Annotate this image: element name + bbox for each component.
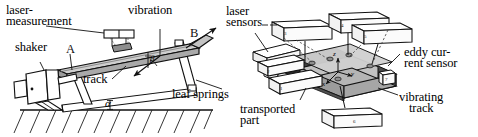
figure-vibratory-conveyor: laser-measurement vibration shaker track…: [0, 0, 478, 137]
item-number-7: 7: [385, 77, 388, 82]
item-number-5: 5: [364, 34, 367, 39]
axis-label-x: x: [322, 80, 325, 88]
label-transported-part: transportedpart: [240, 104, 295, 126]
axis-label-z: z: [333, 50, 336, 58]
laser-measurement-head: [104, 30, 134, 52]
ground-hatching: [14, 110, 213, 133]
item-number-3: 3: [284, 31, 287, 36]
symbol-point-a: A: [66, 42, 75, 57]
label-laser-sensors: lasersensors: [226, 6, 262, 28]
label-eddy-current-sensor: eddy cur-rent sensor: [404, 47, 457, 69]
label-vibration: vibration: [128, 5, 172, 17]
label-transported-part-line2: part: [240, 113, 259, 127]
label-laser-sensors-line2: sensors: [226, 15, 262, 29]
label-vibrating-track-line2: track: [399, 103, 433, 114]
item-number-6: 6: [353, 119, 356, 124]
label-shaker: shaker: [15, 42, 47, 54]
axis-label-y: y: [351, 70, 354, 78]
label-vibrating-track: vibratingtrack: [399, 92, 443, 114]
label-eddy-current-line2: rent sensor: [404, 56, 457, 70]
symbol-angle-beta: β: [150, 53, 154, 63]
symbol-angle-alpha: α: [105, 97, 111, 109]
label-laser-measurement: laser-measurement: [6, 5, 72, 27]
item-number-4: 4: [341, 23, 344, 28]
label-laser-measurement-line2: measurement: [6, 14, 72, 28]
symbol-point-b: B: [190, 26, 198, 41]
item-number-1: 1: [280, 86, 283, 91]
label-track: track: [83, 74, 107, 86]
label-leaf-springs: leaf springs: [172, 89, 229, 101]
item-number-2: 2: [267, 69, 270, 74]
